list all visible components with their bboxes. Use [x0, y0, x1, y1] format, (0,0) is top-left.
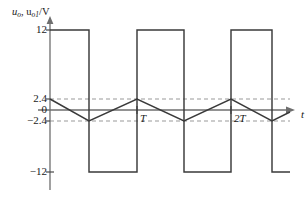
- x-axis-title: t: [301, 109, 304, 120]
- y-tick-label-12: 12: [19, 24, 47, 35]
- y-tick-label-neg2p4: −2.4: [10, 115, 47, 126]
- y-axis-title-unit: /V: [39, 6, 50, 17]
- waveform-figure: uo, uo1/V t 12 2.4 0 −2.4 −12 T 2T: [0, 0, 308, 207]
- y-axis: [47, 16, 54, 190]
- x-tick-label-T: T: [140, 113, 146, 124]
- square-wave-trace: [50, 30, 290, 172]
- y-axis-title: uo, uo1/V: [12, 7, 50, 18]
- y-axis-title-sub1: o: [17, 10, 21, 19]
- y-axis-title-sep: , u: [21, 6, 32, 17]
- x-axis-arrow-icon: [286, 107, 295, 114]
- y-tick-label-neg12: −12: [12, 166, 47, 177]
- x-tick-label-2T: 2T: [234, 113, 246, 124]
- y-axis-title-sub2: o1: [32, 10, 40, 19]
